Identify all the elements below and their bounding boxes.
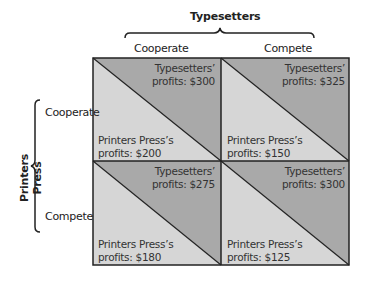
printers-payoff-compete-coop: Printers Press’s profits: $180	[98, 238, 173, 264]
printers-profit: profits: $150	[227, 147, 302, 160]
printers-payoff-coop-coop: Printers Press’s profits: $200	[98, 134, 173, 160]
typesetters-payoff-coop-coop: Typesetters’ profits: $300	[152, 62, 215, 88]
printers-label: Printers Press’s	[227, 238, 302, 251]
typesetters-payoff-compete-coop: Typesetters’ profits: $275	[152, 165, 215, 191]
typesetters-profit: profits: $275	[152, 178, 215, 191]
printers-profit: profits: $125	[227, 251, 302, 264]
typesetters-label: Typesetters’	[282, 165, 345, 178]
typesetters-profit: profits: $300	[282, 178, 345, 191]
typesetters-label: Typesetters’	[152, 62, 215, 75]
printers-payoff-coop-compete: Printers Press’s profits: $150	[227, 134, 302, 160]
column-label-cooperate: Cooperate	[134, 42, 189, 55]
row-label-compete: Compete	[45, 210, 93, 223]
typesetters-profit: profits: $300	[152, 75, 215, 88]
typesetters-label: Typesetters’	[152, 165, 215, 178]
column-label-compete: Compete	[264, 42, 312, 55]
printers-label: Printers Press’s	[227, 134, 302, 147]
row-player-title: Printers Press	[18, 143, 44, 213]
row-label-cooperate: Cooperate	[45, 106, 100, 119]
printers-label: Printers Press’s	[98, 238, 173, 251]
typesetters-label: Typesetters’	[282, 62, 345, 75]
printers-profit: profits: $180	[98, 251, 173, 264]
typesetters-payoff-coop-compete: Typesetters’ profits: $325	[282, 62, 345, 88]
printers-payoff-compete-compete: Printers Press’s profits: $125	[227, 238, 302, 264]
top-brace	[125, 28, 314, 38]
typesetters-profit: profits: $325	[282, 75, 345, 88]
printers-label: Printers Press’s	[98, 134, 173, 147]
typesetters-payoff-compete-compete: Typesetters’ profits: $300	[282, 165, 345, 191]
printers-profit: profits: $200	[98, 147, 173, 160]
